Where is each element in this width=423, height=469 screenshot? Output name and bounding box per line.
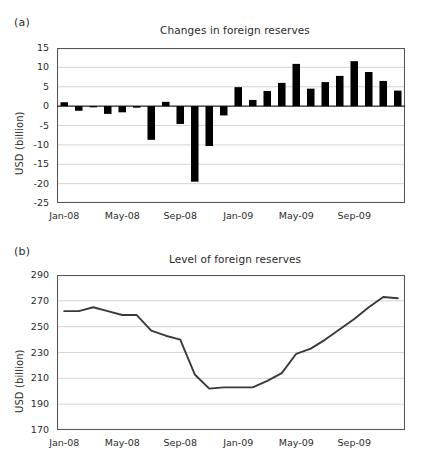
panel-b-x-tick: May-08 — [92, 437, 152, 448]
bar — [350, 61, 358, 106]
panel-a-plot-area — [57, 48, 405, 203]
panel-a-y-tick: 5 — [5, 81, 49, 92]
bar — [191, 106, 199, 182]
panel-b-title: Level of foreign reserves — [60, 253, 410, 265]
reserves-line — [64, 297, 398, 389]
panel-b-y-tick: 270 — [5, 295, 49, 306]
panel-b-x-tick: Jan-08 — [34, 437, 94, 448]
panel-b-x-tick: Jan-09 — [208, 437, 268, 448]
panel-a-y-tick: -10 — [5, 139, 49, 150]
panel-a-letter: (a) — [14, 16, 30, 29]
panel-a-y-tick: -20 — [5, 178, 49, 189]
bar — [89, 106, 97, 107]
panel-b-plot-area — [57, 275, 405, 430]
bar — [176, 106, 184, 124]
panel-b-y-tick: 290 — [5, 269, 49, 280]
bar — [60, 102, 68, 106]
bar — [292, 64, 300, 106]
bar — [278, 83, 286, 106]
panel-a-x-tick: May-08 — [92, 210, 152, 221]
panel-a-x-tick: Jan-09 — [208, 210, 268, 221]
bar — [234, 87, 242, 106]
bar — [220, 106, 228, 115]
panel-b-x-tick: May-09 — [266, 437, 326, 448]
panel-a-x-tick: Sep-09 — [324, 210, 384, 221]
panel-b-y-tick: 190 — [5, 398, 49, 409]
bar — [394, 91, 402, 107]
panel-a-x-tick: Sep-08 — [150, 210, 210, 221]
panel-a-x-tick: Jan-08 — [34, 210, 94, 221]
bar — [321, 82, 329, 106]
bar — [147, 106, 155, 140]
bar — [75, 106, 83, 111]
panel-a-y-tick: 15 — [5, 42, 49, 53]
panel-b-y-tick: 250 — [5, 321, 49, 332]
bar — [205, 106, 213, 146]
panel-a-y-tick: -15 — [5, 158, 49, 169]
bar — [133, 106, 141, 108]
panel-b-y-tick: 230 — [5, 347, 49, 358]
panel-b-level-of-foreign-reserves: (b) Level of foreign reserves USD (billi… — [0, 235, 423, 469]
panel-b-letter: (b) — [14, 245, 30, 258]
bar — [336, 76, 344, 106]
bar — [307, 89, 315, 106]
panel-a-y-tick: -5 — [5, 120, 49, 131]
bar — [162, 102, 170, 106]
bar — [249, 100, 257, 106]
panel-a-y-tick: 0 — [5, 100, 49, 111]
panel-a-axes — [57, 48, 405, 203]
panel-a-x-tick: May-09 — [266, 210, 326, 221]
panel-a-changes-in-foreign-reserves: (a) Changes in foreign reserves USD (bil… — [0, 0, 423, 235]
bar — [104, 106, 112, 114]
bar — [263, 91, 271, 106]
panel-a-y-tick: -25 — [5, 197, 49, 208]
bar — [118, 106, 126, 112]
panel-a-title: Changes in foreign reserves — [60, 24, 410, 36]
panel-b-y-tick: 210 — [5, 372, 49, 383]
panel-b-x-tick: Sep-08 — [150, 437, 210, 448]
panel-b-axes — [57, 275, 405, 430]
panel-b-y-tick: 170 — [5, 424, 49, 435]
panel-a-y-tick: 10 — [5, 61, 49, 72]
bar — [379, 81, 387, 106]
panel-b-x-tick: Sep-09 — [324, 437, 384, 448]
bar — [365, 72, 373, 106]
